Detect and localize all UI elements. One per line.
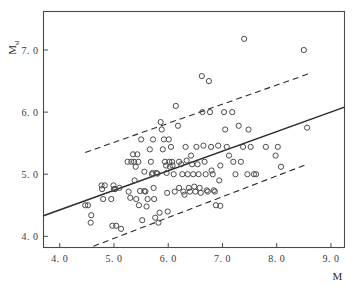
data-point [195,162,200,167]
data-point [156,220,161,225]
data-point [142,169,147,174]
data-point [152,196,157,201]
data-point [188,153,193,158]
data-point [157,210,162,215]
data-point [216,143,221,148]
plot-canvas [0,0,363,294]
data-point [196,172,201,177]
x-tick-label: 6. 0 [160,253,177,264]
data-point [304,125,309,130]
x-tick-label: 8. 0 [268,253,285,264]
data-point [102,183,107,188]
x-tick-label: 5. 0 [106,253,123,264]
data-point [278,164,283,169]
data-point [144,204,149,209]
data-point [165,190,170,195]
data-point [153,215,158,220]
data-point [173,103,178,108]
data-point [212,189,217,194]
data-point [139,137,144,142]
regression-line [44,107,345,216]
data-point [191,172,196,177]
data-point [159,127,164,132]
data-point [205,189,210,194]
y-axis-title-base: M [6,45,18,55]
y-tick-label: 5. 0 [0,169,39,180]
x-tick-label: 4. 0 [51,253,68,264]
data-point [275,144,280,149]
data-point [273,153,278,158]
data-point [192,184,197,189]
data-point [172,189,177,194]
data-point [101,196,106,201]
data-point [148,159,153,164]
data-point [160,147,165,152]
data-point [218,163,223,168]
data-point [248,144,253,149]
data-point [263,144,268,149]
data-point [133,164,138,169]
data-point [236,123,241,128]
data-points [83,36,310,231]
data-point [114,223,119,228]
data-point [207,110,212,115]
data-point [226,153,231,158]
data-point [88,220,93,225]
data-point [184,158,189,163]
data-point [242,36,247,41]
data-point [171,172,176,177]
data-point [238,159,243,164]
data-point [128,195,133,200]
data-point [206,78,211,83]
data-point [194,144,199,149]
data-point [175,123,180,128]
upper-confidence-band [85,74,309,153]
data-point [198,190,203,195]
data-point [89,213,94,218]
y-tick-label: 4. 0 [0,231,39,242]
data-point [176,185,181,190]
data-point [223,127,228,132]
data-point [224,144,229,149]
data-point [230,110,235,115]
data-point [182,192,187,197]
data-point [240,144,245,149]
data-point [185,172,190,177]
data-point [181,189,186,194]
data-point [158,119,163,124]
data-point [199,73,204,78]
data-point [217,178,222,183]
data-point [140,218,145,223]
data-point [151,185,156,190]
data-point [180,172,185,177]
data-point [193,189,198,194]
data-point [134,196,139,201]
scatter-plot-figure: 4. 05. 06. 07. 08. 09. 04. 05. 06. 07. 0… [0,0,363,294]
data-point [202,159,207,164]
data-point [165,209,170,214]
data-point [168,144,173,149]
data-point [118,226,123,231]
data-point [233,172,238,177]
data-point [246,127,251,132]
data-point [231,159,236,164]
data-point [222,110,227,115]
data-point [126,189,131,194]
data-point [208,144,213,149]
data-point [245,172,250,177]
x-tick-label: 7. 0 [214,253,231,264]
y-tick-label: 6. 0 [0,107,39,118]
x-axis-title: M [333,270,343,282]
data-point [301,47,306,52]
data-point [150,137,155,142]
y-axis-title: Msl [6,40,21,54]
data-point [201,143,206,148]
data-point [109,196,114,201]
data-point [136,203,141,208]
data-point [183,144,188,149]
y-axis-title-subscript: sl [13,40,21,45]
data-point [197,185,202,190]
data-point [145,196,150,201]
x-tick-label: 9. 0 [322,253,339,264]
data-point [203,172,208,177]
